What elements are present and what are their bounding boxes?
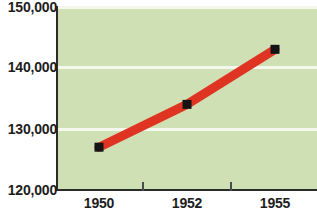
x-axis-tick-2 xyxy=(230,182,232,191)
x-axis-label-1955: 1955 xyxy=(260,195,290,211)
y-axis-label-150000: 150,000 xyxy=(1,0,57,15)
gridline-140000 xyxy=(58,66,317,69)
x-axis-tick-1 xyxy=(142,182,144,191)
y-axis-label-140000: 140,000 xyxy=(1,59,57,75)
x-axis-label-1952: 1952 xyxy=(172,195,202,211)
y-axis-label-130000: 130,000 xyxy=(1,121,57,137)
line-chart: 150,000 140,000 130,000 120,000 1950 195… xyxy=(0,0,317,217)
plot-area xyxy=(56,6,317,191)
gridline-130000 xyxy=(58,128,317,131)
y-axis-label-120000: 120,000 xyxy=(1,182,57,198)
x-axis-label-1950: 1950 xyxy=(84,195,114,211)
gridline-150000 xyxy=(58,6,317,9)
